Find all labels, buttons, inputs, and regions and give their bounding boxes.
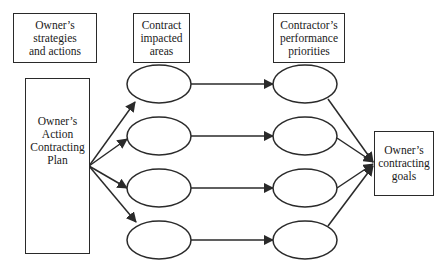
- action-plan-line2: Action: [42, 128, 73, 141]
- priority-node-1: [273, 65, 337, 103]
- action-plan-line3: Contracting: [30, 141, 84, 154]
- arrow-plan-to-area-2: [89, 139, 127, 166]
- action-plan-box: Owner’s Action Contracting Plan: [25, 78, 90, 254]
- priority-node-4: [273, 221, 337, 259]
- action-plan-line4: Plan: [47, 154, 67, 167]
- goals-line2: contracting: [378, 157, 430, 170]
- arrow-priority3-to-goals: [337, 164, 373, 188]
- goals-line1: Owner’s: [384, 144, 423, 157]
- priority-node-2: [273, 117, 337, 155]
- arrow-priority2-to-goals: [337, 138, 373, 162]
- action-plan-line1: Owner’s: [38, 115, 77, 128]
- impacted-area-node-1: [127, 65, 191, 103]
- impacted-area-node-3: [127, 169, 191, 207]
- goals-box: Owner’s contracting goals: [374, 131, 434, 196]
- impacted-area-node-2: [127, 117, 191, 155]
- impacted-area-node-4: [127, 221, 191, 259]
- arrow-plan-to-area-3: [89, 166, 127, 188]
- goals-line3: goals: [392, 170, 416, 183]
- priority-node-3: [273, 169, 337, 207]
